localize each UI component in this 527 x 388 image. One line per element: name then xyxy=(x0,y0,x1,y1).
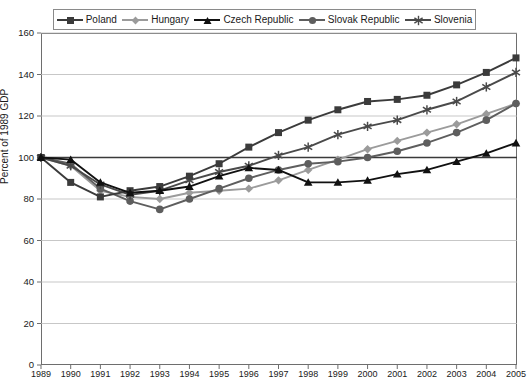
chart-canvas xyxy=(0,0,527,388)
y-axis-tick-label: 60 xyxy=(8,236,34,246)
data-series-group xyxy=(37,54,521,213)
y-axis-tick-label: 100 xyxy=(8,153,34,163)
y-axis-tick-label: 160 xyxy=(8,28,34,38)
y-axis-tick-label: 80 xyxy=(8,194,34,204)
y-axis-tick-label: 120 xyxy=(8,111,34,121)
y-axis-tick-label: 40 xyxy=(8,277,34,287)
y-axis-tick-label: 20 xyxy=(8,319,34,329)
y-axis-tick-label: 140 xyxy=(8,70,34,80)
x-axis-tick-label: 2005 xyxy=(499,370,527,379)
chart-root: Poland Hungary Czech Republic Slovak Rep… xyxy=(0,0,527,388)
y-axis-ticks xyxy=(37,33,41,365)
